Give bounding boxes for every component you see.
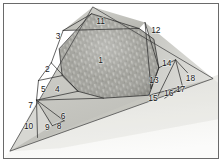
region-label-12: 12 bbox=[151, 25, 161, 35]
figure-root: 1 2 3 4 5 6 7 8 9 10 11 12 13 14 15 16 1… bbox=[0, 0, 223, 163]
region-label-18: 18 bbox=[186, 73, 196, 83]
region-label-11: 11 bbox=[96, 16, 105, 26]
region-label-5: 5 bbox=[41, 84, 46, 94]
polygon-partition-diagram: 1 2 3 4 5 6 7 8 9 10 11 12 13 14 15 16 1… bbox=[3, 3, 219, 159]
region-label-3: 3 bbox=[56, 31, 61, 41]
region-label-7: 7 bbox=[28, 100, 33, 110]
region-label-2: 2 bbox=[45, 64, 50, 74]
region-label-1: 1 bbox=[98, 55, 103, 65]
region-label-6: 6 bbox=[61, 111, 66, 121]
region-label-4: 4 bbox=[55, 84, 60, 94]
region-label-15: 15 bbox=[148, 93, 158, 103]
region-label-14: 14 bbox=[162, 58, 172, 68]
region-label-8: 8 bbox=[57, 121, 62, 131]
region-label-17: 17 bbox=[176, 84, 186, 94]
region-label-10: 10 bbox=[24, 121, 34, 131]
region-label-9: 9 bbox=[45, 122, 50, 132]
figure-frame: 1 2 3 4 5 6 7 8 9 10 11 12 13 14 15 16 1… bbox=[3, 3, 219, 159]
region-label-16: 16 bbox=[164, 88, 174, 98]
region-label-13: 13 bbox=[149, 75, 159, 85]
